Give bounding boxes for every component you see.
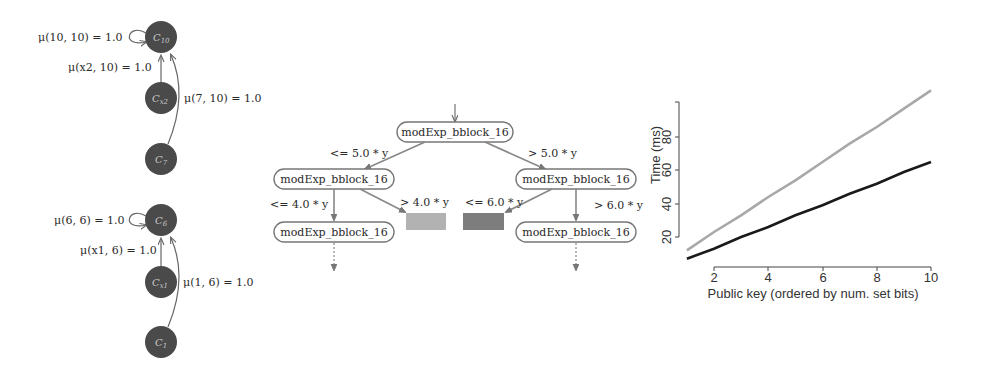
- edge-label-left-leaf: > 4.0 * y: [400, 196, 450, 209]
- edge-label-cx2-c10: μ(x2, 10) = 1.0: [68, 61, 152, 74]
- self-loop-arrow-c6: [129, 213, 146, 226]
- leaf-dark: [463, 213, 504, 230]
- edge-label-root-left: <= 5.0 * y: [330, 147, 389, 160]
- edge-label-right-leaf: <= 6.0 * y: [465, 196, 524, 209]
- x-tick-label-8: 8: [873, 270, 880, 285]
- leaf-light: [406, 213, 446, 230]
- tree-node-leftleft-label: modExp_bblock_16: [280, 226, 387, 239]
- self-loop-arrow-c10: [129, 30, 146, 43]
- y-tick-label-40: 40: [659, 197, 674, 211]
- markov-chain-top: μ(10, 10) = 1.0 μ(x2, 10) = 1.0 μ(7, 10)…: [38, 21, 261, 175]
- y-axis-label: Time (ms): [648, 126, 663, 184]
- tree-node-left-label: modExp_bblock_16: [280, 173, 387, 186]
- edge-label-c10-c10: μ(10, 10) = 1.0: [38, 31, 122, 44]
- series-line-black: [687, 162, 931, 259]
- markov-chain-bottom: μ(6, 6) = 1.0 μ(x1, 6) = 1.0 μ(1, 6) = 1…: [54, 204, 253, 358]
- edge-label-right-right: > 6.0 * y: [594, 199, 644, 212]
- edge-label-cx1-c6: μ(x1, 6) = 1.0: [80, 244, 157, 257]
- x-tick-label-10: 10: [924, 270, 938, 285]
- decision-tree: modExp_bblock_16 <= 5.0 * y > 5.0 * y mo…: [270, 104, 644, 270]
- edge-label-c7-c10: μ(7, 10) = 1.0: [184, 92, 261, 105]
- x-axis-label: Public key (ordered by num. set bits): [708, 286, 919, 301]
- tree-node-root-label: modExp_bblock_16: [401, 126, 508, 139]
- edge-label-root-right: > 5.0 * y: [528, 147, 578, 160]
- series-line-gray: [687, 90, 931, 250]
- edge-left-leaf: [360, 189, 405, 212]
- x-tick-label-2: 2: [710, 270, 717, 285]
- tree-node-right-label: modExp_bblock_16: [522, 173, 629, 186]
- y-tick-label-20: 20: [659, 230, 674, 244]
- tree-node-rightright-label: modExp_bblock_16: [522, 226, 629, 239]
- edge-label-c6-c6: μ(6, 6) = 1.0: [54, 214, 124, 227]
- edge-label-c1-c6: μ(1, 6) = 1.0: [183, 276, 253, 289]
- x-tick-label-6: 6: [819, 270, 826, 285]
- timing-chart: 20 40 60 80 Time (ms) 2 4 6 8 10 Public …: [648, 90, 938, 301]
- figure-canvas: μ(10, 10) = 1.0 μ(x2, 10) = 1.0 μ(7, 10)…: [0, 0, 982, 380]
- x-tick-label-4: 4: [764, 270, 771, 285]
- edge-label-left-left: <= 4.0 * y: [270, 198, 329, 211]
